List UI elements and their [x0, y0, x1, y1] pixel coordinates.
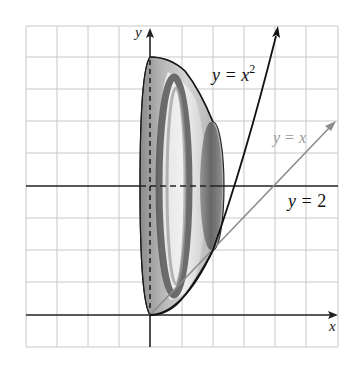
rotation-axis-label: y = 2	[286, 191, 326, 211]
x-axis-label: x	[328, 318, 336, 334]
parabola-label: y = x2	[210, 62, 255, 85]
line-label: y = x	[271, 129, 306, 147]
y-axis-label: y	[133, 24, 142, 40]
solid-of-revolution-diagram: y x y = x2 y = x y = 2	[0, 0, 357, 365]
